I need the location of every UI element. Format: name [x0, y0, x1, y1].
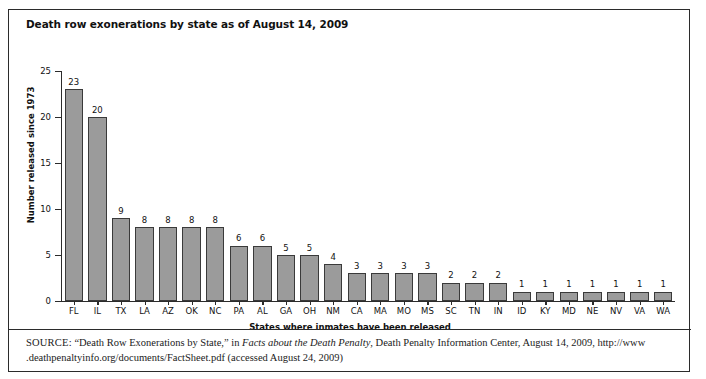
x-tick-IN: [498, 301, 499, 305]
y-tick-label: 25: [29, 67, 51, 76]
bar-NE[interactable]: [583, 292, 601, 301]
bar-value-AZ: 8: [156, 216, 180, 225]
bar-slot: 3: [392, 71, 416, 301]
x-tick-FL: [74, 301, 75, 305]
x-tick-MA: [380, 301, 381, 305]
bar-CA[interactable]: [348, 273, 366, 301]
x-tick-label-GA: GA: [274, 307, 298, 316]
x-tick-label-MA: MA: [369, 307, 393, 316]
bar-slot: 1: [510, 71, 534, 301]
y-tick-label: 10: [29, 205, 51, 214]
bar-VA[interactable]: [630, 292, 648, 301]
bar-value-OK: 8: [180, 216, 204, 225]
x-tick-label-FL: FL: [62, 307, 86, 316]
bar-slot: 8: [133, 71, 157, 301]
bar-IN[interactable]: [489, 283, 507, 301]
bar-slot: 1: [651, 71, 675, 301]
x-tick-label-LA: LA: [133, 307, 157, 316]
bar-slot: 1: [534, 71, 558, 301]
x-tick-label-NM: NM: [321, 307, 345, 316]
bar-AZ[interactable]: [159, 227, 177, 301]
bar-slot: 5: [274, 71, 298, 301]
bar-slot: 8: [156, 71, 180, 301]
x-tick-AZ: [168, 301, 169, 305]
y-tick-5: [55, 255, 61, 256]
bar-LA[interactable]: [135, 227, 153, 301]
x-tick-label-OH: OH: [298, 307, 322, 316]
bar-value-FL: 23: [62, 78, 86, 87]
bar-FL[interactable]: [65, 89, 83, 301]
x-tick-label-MD: MD: [557, 307, 581, 316]
source-note: SOURCE: “Death Row Exonerations by State…: [26, 335, 676, 365]
bar-value-NM: 4: [321, 253, 345, 262]
bar-slot: 1: [628, 71, 652, 301]
bar-SC[interactable]: [442, 283, 460, 301]
bar-value-PA: 6: [227, 234, 251, 243]
x-tick-GA: [286, 301, 287, 305]
x-tick-label-NE: NE: [581, 307, 605, 316]
x-tick-AL: [262, 301, 263, 305]
bar-MA[interactable]: [371, 273, 389, 301]
y-tick-label: 20: [29, 113, 51, 122]
bar-NM[interactable]: [324, 264, 342, 301]
x-axis-title: States where inmates have been released: [9, 322, 691, 332]
bar-AL[interactable]: [253, 246, 271, 301]
bar-value-ID: 1: [510, 280, 534, 289]
bar-MD[interactable]: [560, 292, 578, 301]
bar-PA[interactable]: [230, 246, 248, 301]
x-tick-label-AZ: AZ: [156, 307, 180, 316]
x-tick-label-KY: KY: [534, 307, 558, 316]
bar-OK[interactable]: [182, 227, 200, 301]
y-tick-10: [55, 209, 61, 210]
x-tick-ID: [522, 301, 523, 305]
y-tick-label: 15: [29, 159, 51, 168]
bar-slot: 4: [321, 71, 345, 301]
bar-MS[interactable]: [418, 273, 436, 301]
bar-slot: 1: [581, 71, 605, 301]
bar-value-TX: 9: [109, 207, 133, 216]
x-tick-label-NV: NV: [604, 307, 628, 316]
x-tick-MD: [569, 301, 570, 305]
bar-value-SC: 2: [439, 271, 463, 280]
bar-MO[interactable]: [395, 273, 413, 301]
x-tick-VA: [640, 301, 641, 305]
bar-GA[interactable]: [277, 255, 295, 301]
bar-KY[interactable]: [536, 292, 554, 301]
bar-NC[interactable]: [206, 227, 224, 301]
x-tick-NV: [616, 301, 617, 305]
bar-value-NE: 1: [581, 280, 605, 289]
x-tick-NM: [333, 301, 334, 305]
bar-NV[interactable]: [607, 292, 625, 301]
bar-TX[interactable]: [112, 218, 130, 301]
x-tick-CA: [357, 301, 358, 305]
bar-slot: 3: [416, 71, 440, 301]
x-tick-label-CA: CA: [345, 307, 369, 316]
x-tick-label-ID: ID: [510, 307, 534, 316]
page-title: Death row exonerations by state as of Au…: [26, 18, 348, 30]
x-tick-label-SC: SC: [439, 307, 463, 316]
bar-slot: 2: [439, 71, 463, 301]
x-axis-line: [61, 301, 675, 302]
bar-WA[interactable]: [654, 292, 672, 301]
x-tick-OH: [310, 301, 311, 305]
y-tick-label: 5: [29, 251, 51, 260]
bar-slot: 6: [251, 71, 275, 301]
x-tick-IL: [97, 301, 98, 305]
bar-slot: 20: [86, 71, 110, 301]
x-tick-WA: [663, 301, 664, 305]
note-divider: [9, 329, 691, 330]
x-tick-label-AL: AL: [251, 307, 275, 316]
bar-TN[interactable]: [465, 283, 483, 301]
bar-slot: 3: [369, 71, 393, 301]
x-tick-NE: [592, 301, 593, 305]
bar-value-CA: 3: [345, 262, 369, 271]
x-tick-label-NC: NC: [203, 307, 227, 316]
bar-value-KY: 1: [534, 280, 558, 289]
x-tick-PA: [239, 301, 240, 305]
bar-value-MD: 1: [557, 280, 581, 289]
bar-IL[interactable]: [88, 117, 106, 301]
bar-OH[interactable]: [300, 255, 318, 301]
bar-slot: 8: [180, 71, 204, 301]
bar-slot: 2: [463, 71, 487, 301]
bar-ID[interactable]: [513, 292, 531, 301]
